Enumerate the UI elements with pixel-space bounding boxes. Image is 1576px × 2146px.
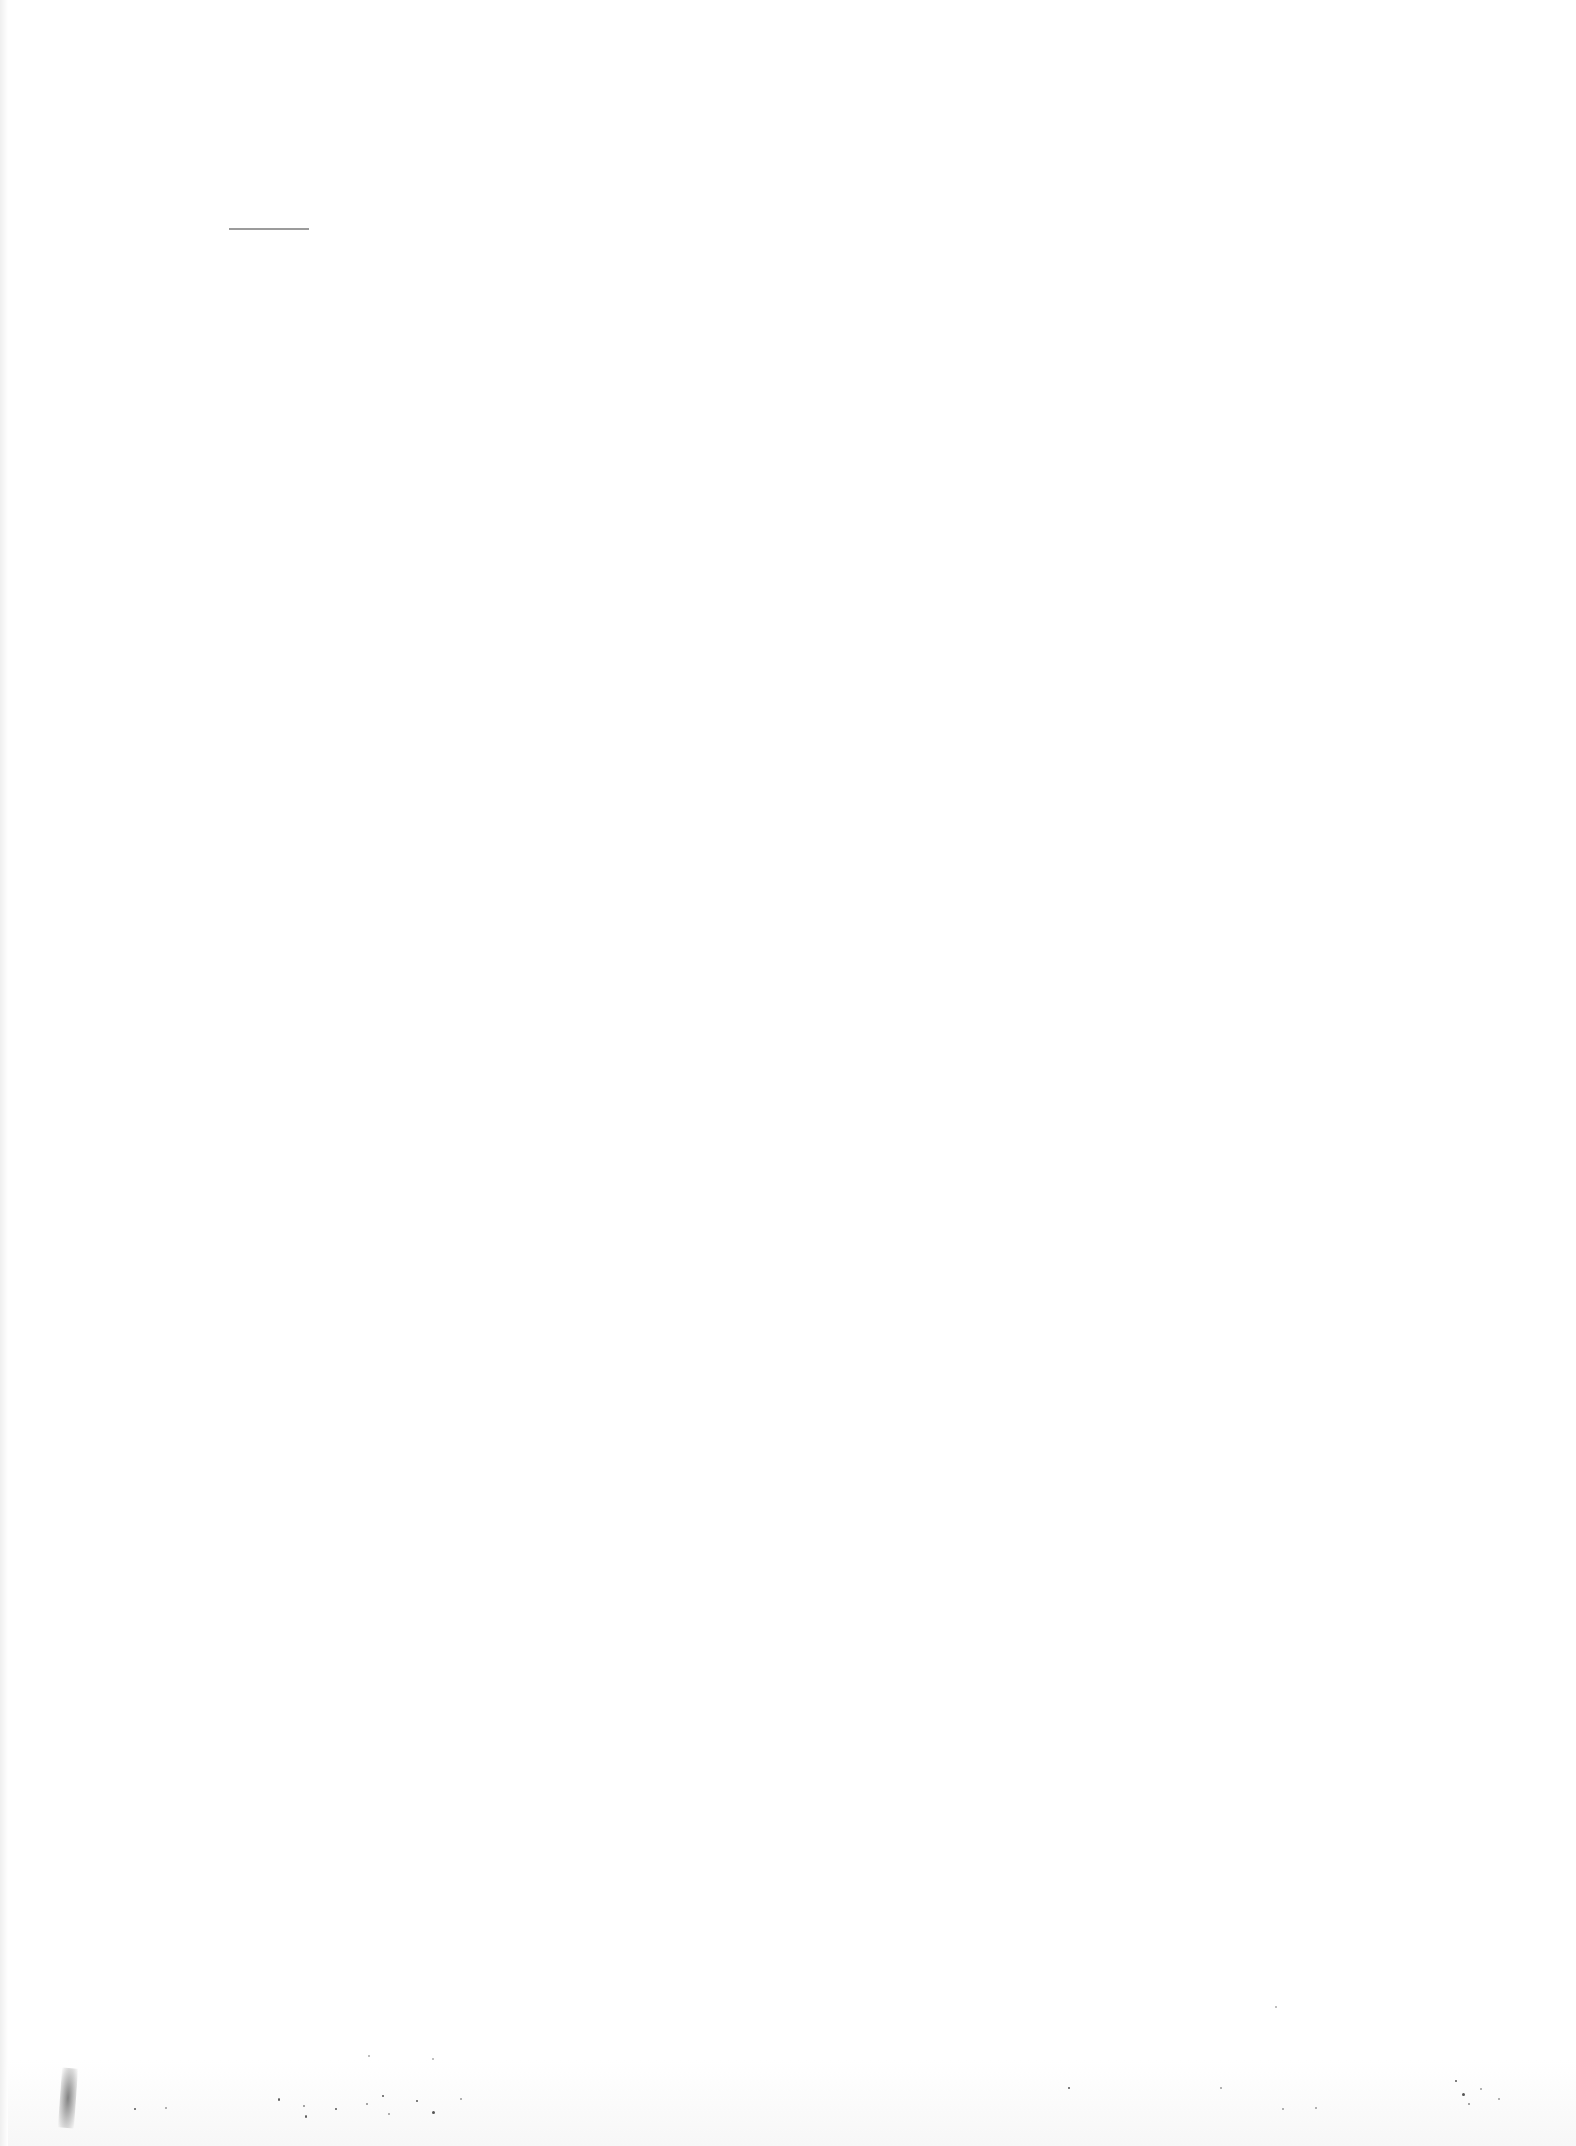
scan-noise-bottom-left bbox=[120, 2060, 620, 2140]
scan-edge-shadow bbox=[0, 0, 8, 2146]
scan-noise-bottom-right bbox=[1060, 2060, 1570, 2140]
scan-smudge bbox=[58, 2068, 78, 2129]
blank-document-page bbox=[0, 0, 1576, 2146]
horizontal-rule bbox=[229, 228, 309, 230]
